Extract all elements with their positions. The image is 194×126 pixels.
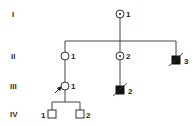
female-symbol bbox=[61, 52, 69, 60]
individual-number: 2 bbox=[128, 87, 133, 96]
individual-i-1: 1 bbox=[116, 10, 131, 19]
individual-number: 2 bbox=[86, 111, 91, 120]
individual-iii-2: 2 bbox=[113, 83, 133, 96]
carrier-dot-icon bbox=[119, 13, 121, 15]
individual-number: 3 bbox=[184, 57, 189, 66]
male-symbol bbox=[48, 110, 56, 118]
carrier-dot-icon bbox=[119, 55, 121, 57]
generation-label-i: I bbox=[12, 10, 14, 19]
male-symbol bbox=[76, 110, 84, 118]
individual-number: 1 bbox=[41, 111, 46, 120]
individual-number: 1 bbox=[71, 82, 76, 91]
generation-label-iii: III bbox=[10, 82, 17, 91]
individual-number: 1 bbox=[126, 10, 131, 19]
individual-ii-3: 3 bbox=[169, 53, 189, 66]
pedigree-chart: I II III IV 1 1 2 3 1 bbox=[0, 0, 194, 126]
female-symbol bbox=[61, 82, 69, 90]
individual-iv-1: 1 bbox=[41, 110, 56, 120]
individual-ii-1: 1 bbox=[61, 52, 76, 61]
individual-number: 1 bbox=[71, 52, 76, 61]
individual-ii-2: 2 bbox=[116, 52, 131, 61]
individual-number: 2 bbox=[126, 52, 131, 61]
generation-label-iv: IV bbox=[10, 110, 18, 119]
generation-label-ii: II bbox=[11, 52, 15, 61]
individual-iv-2: 2 bbox=[76, 110, 91, 120]
